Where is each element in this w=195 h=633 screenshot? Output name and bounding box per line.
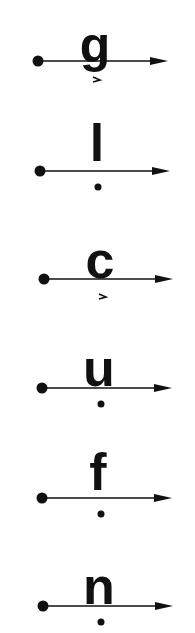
arrowhead-icon	[152, 167, 170, 175]
row-f: f	[68, 446, 128, 498]
stroke-start-dot-icon	[98, 619, 105, 626]
row-c: c	[70, 234, 130, 286]
stroke-start-dot-icon	[98, 401, 105, 408]
letter-u: u	[83, 339, 115, 397]
row-n: n	[69, 560, 129, 612]
start-dot-icon	[37, 493, 48, 504]
baseline-arrows-layer	[0, 0, 195, 633]
start-dot-icon	[35, 166, 46, 177]
arrowhead-icon	[155, 275, 173, 283]
letter-c: c	[86, 231, 115, 289]
start-dot-icon	[37, 383, 48, 394]
letter-n: n	[83, 557, 115, 615]
letter-g: g	[80, 17, 111, 73]
start-dot-icon	[33, 56, 44, 67]
arrowhead-icon	[154, 384, 172, 392]
letter-f: f	[89, 443, 106, 501]
arrowhead-icon	[150, 57, 168, 65]
stroke-start-dot-icon	[98, 511, 105, 518]
start-dot-icon	[39, 274, 50, 285]
row-g: g	[65, 20, 125, 70]
arrowhead-icon	[154, 494, 172, 502]
row-u: u	[69, 342, 129, 394]
row-l: l	[67, 117, 127, 169]
stroke-direction-chevron-icon	[99, 294, 106, 299]
arrowhead-icon	[155, 602, 173, 610]
stroke-direction-chevron-icon	[93, 77, 100, 82]
stroke-start-dot-icon	[95, 184, 102, 191]
start-dot-icon	[38, 601, 49, 612]
letter-l: l	[90, 114, 104, 172]
